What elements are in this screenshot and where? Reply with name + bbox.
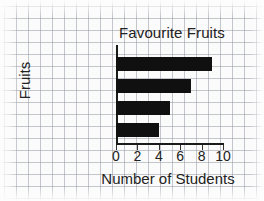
bar-apple	[116, 57, 212, 71]
chart-title: Favourite Fruits	[116, 24, 228, 41]
plot-area	[116, 46, 223, 144]
x-axis-title: Number of Students	[88, 170, 248, 187]
bar-banana	[116, 79, 191, 93]
bar-row	[116, 79, 191, 93]
bar-strawberry	[116, 123, 159, 137]
bar-row	[116, 123, 159, 137]
bar-orange	[116, 101, 170, 115]
bar-row	[116, 57, 212, 71]
y-axis-title: Fruits	[16, 51, 33, 111]
x-tick-label-10: 10	[210, 148, 236, 164]
bar-row	[116, 101, 170, 115]
graph-paper-canvas: Favourite Fruits Fruits Number of Studen…	[0, 0, 264, 201]
